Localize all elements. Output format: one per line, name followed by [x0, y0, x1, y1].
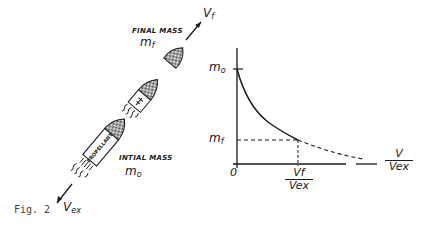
final-mass-sub: f [152, 41, 155, 50]
m0-sub: o [221, 66, 226, 75]
x-axis-denominator: Vex [385, 161, 413, 173]
diagram-canvas: PROPELLANT [0, 0, 423, 234]
vf-denominator: Vex [285, 180, 313, 192]
origin-label: 0 [230, 166, 237, 179]
initial-mass-m: m [125, 164, 137, 178]
final-mass-symbol: mf [140, 35, 155, 50]
mf-axis-label: mf [209, 131, 224, 146]
final-velocity-v: V [203, 6, 211, 20]
final-mass-label: FINAL MASS [132, 27, 183, 35]
vf-over-vex-label: Vf Vex [285, 167, 313, 192]
exhaust-velocity-sub: ex [71, 206, 81, 215]
final-velocity-label: Vf [203, 6, 214, 21]
initial-mass-symbol: mo [125, 164, 142, 179]
mf-sub: f [221, 137, 224, 146]
final-mass-payload [164, 43, 189, 69]
final-mass-m: m [140, 35, 152, 49]
initial-rocket: PROPELLANT [70, 113, 131, 181]
final-velocity-arrow [186, 22, 201, 40]
exhaust-velocity-v: V [63, 200, 71, 214]
final-velocity-sub: f [211, 12, 214, 21]
mass-curve-solid [237, 69, 298, 140]
mf-m: m [209, 131, 221, 145]
initial-mass-label: INTIAL MASS [119, 154, 173, 162]
exhaust-velocity-label: Vex [63, 200, 81, 215]
middle-rocket [121, 74, 163, 120]
x-axis-label: V Vex [385, 148, 413, 173]
mass-curve-dashed [298, 140, 363, 159]
m0-m: m [209, 60, 221, 74]
initial-mass-sub: o [137, 170, 142, 179]
figure-caption: Fig. 2 [14, 204, 50, 215]
m0-axis-label: mo [209, 60, 226, 75]
